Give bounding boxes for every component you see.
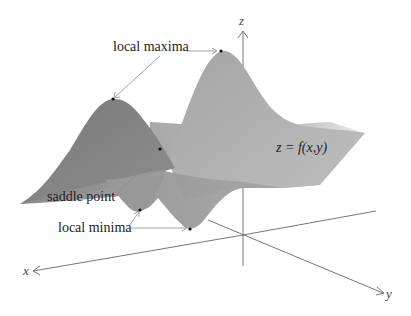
label-x-axis: x: [23, 264, 29, 277]
label-surface-equation: z = f(x,y): [276, 141, 327, 155]
label-z-axis: z: [239, 14, 244, 27]
leader-maxima-1: [115, 56, 160, 97]
local-minimum-point-1: [138, 208, 141, 211]
saddle-point-marker: [158, 147, 161, 150]
y-axis: [208, 220, 383, 293]
label-local-minima: local minima: [58, 221, 131, 235]
x-axis-positive: [243, 211, 376, 235]
label-saddle-point: saddle point: [47, 190, 115, 204]
surface-diagram: [0, 0, 411, 316]
label-y-axis: y: [386, 287, 392, 300]
label-local-maxima: local maxima: [113, 40, 189, 54]
local-minimum-point-2: [188, 227, 191, 230]
local-maximum-point-1: [111, 97, 114, 100]
local-maximum-point-2: [219, 49, 222, 52]
x-axis: [33, 235, 243, 271]
